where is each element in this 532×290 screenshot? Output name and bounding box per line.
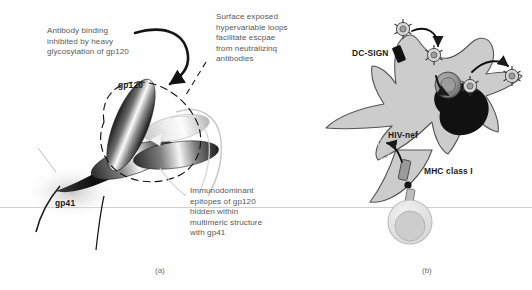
hiv-nef-label: HIV-nef bbox=[388, 130, 418, 140]
panel-a-caption: (a) bbox=[155, 266, 165, 275]
gp41-label: gp41 bbox=[55, 198, 75, 208]
figure-root: Antibody binding inhibited by heavy glyc… bbox=[0, 0, 532, 290]
hypervariable-loops-note: Surface exposed hypervariable loops faci… bbox=[216, 12, 320, 65]
t-cell-nucleus bbox=[395, 211, 425, 241]
gp120-label: gp120 bbox=[118, 80, 143, 90]
dc-sign-label: DC-SIGN bbox=[352, 48, 389, 58]
panel-b-caption: (b) bbox=[422, 266, 432, 275]
mhc-class-i-label: MHC class I bbox=[424, 166, 473, 176]
peptide-tcr-contact bbox=[404, 181, 411, 188]
immunodominant-epitopes-note: Immunodominant epitopes of gp120 hidden … bbox=[190, 186, 300, 239]
antibody-binding-note: Antibody binding inhibited by heavy glyc… bbox=[47, 26, 165, 58]
gp41-label-leader bbox=[38, 148, 56, 172]
immunodominant-leader bbox=[160, 168, 186, 196]
